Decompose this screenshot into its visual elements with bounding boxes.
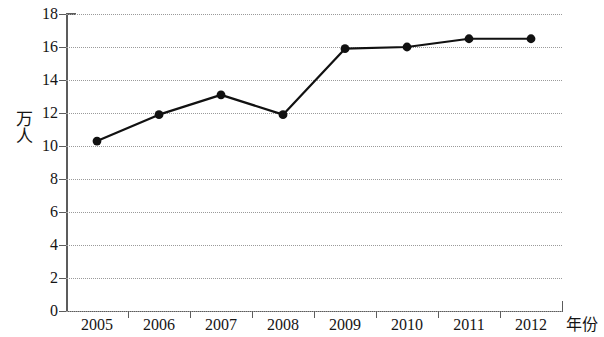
y-axis-tick-label: 10 <box>34 138 58 154</box>
x-axis-tick-label: 2008 <box>253 316 313 334</box>
data-point <box>155 110 164 119</box>
plot-area <box>66 14 562 311</box>
y-axis-tick <box>59 311 66 312</box>
data-point <box>527 34 536 43</box>
data-series <box>66 14 562 311</box>
y-axis-tick-label: 4 <box>34 237 58 253</box>
x-axis-tick-label: 2007 <box>191 316 251 334</box>
x-axis-tick-label: 2010 <box>377 316 437 334</box>
data-point <box>93 137 102 146</box>
y-axis-tick <box>59 47 66 48</box>
y-axis-tick <box>59 212 66 213</box>
y-axis-tick-label: 0 <box>34 303 58 319</box>
data-point <box>465 34 474 43</box>
y-axis-tick-label: 2 <box>34 270 58 286</box>
x-axis-tick-label: 2006 <box>129 316 189 334</box>
y-axis-title: 万人 <box>6 110 32 144</box>
y-axis-tick-label: 16 <box>34 39 58 55</box>
x-axis-tick-label: 2005 <box>67 316 127 334</box>
x-axis-title: 年份 <box>566 316 598 334</box>
y-axis-tick-label: 8 <box>34 171 58 187</box>
data-point <box>217 90 226 99</box>
x-axis-tick-label: 2011 <box>439 316 499 334</box>
x-axis-tick-labels: 20052006200720082009201020112012 <box>66 316 566 337</box>
y-axis-tick <box>59 113 66 114</box>
y-axis-tick-label: 6 <box>34 204 58 220</box>
x-axis-tick-label: 2012 <box>501 316 561 334</box>
data-point <box>279 110 288 119</box>
y-axis-tick-labels: 024681012141618 <box>30 0 58 337</box>
y-axis-tick <box>59 146 66 147</box>
y-axis-tick-label: 14 <box>34 72 58 88</box>
x-axis-tick-label: 2009 <box>315 316 375 334</box>
series-markers <box>93 34 536 145</box>
data-point <box>341 44 350 53</box>
y-axis-tick <box>59 278 66 279</box>
line-chart: 万人 024681012141618 200520062007200820092… <box>0 0 604 337</box>
y-axis-tick-label: 18 <box>34 6 58 22</box>
y-axis-tick-label: 12 <box>34 105 58 121</box>
series-line <box>97 39 531 141</box>
y-axis-tick <box>59 80 66 81</box>
y-axis-tick <box>59 245 66 246</box>
y-axis-tick <box>59 14 66 15</box>
y-axis-tick <box>59 179 66 180</box>
data-point <box>403 43 412 52</box>
